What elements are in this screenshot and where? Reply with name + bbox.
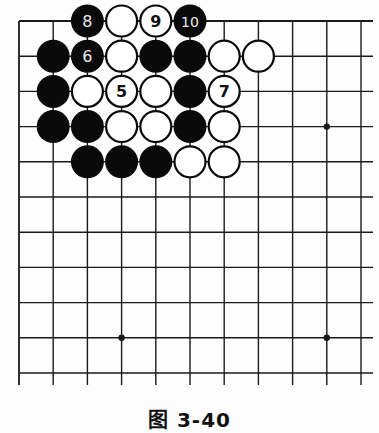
black-stone	[174, 75, 207, 108]
white-stone	[243, 41, 274, 72]
black-stone	[71, 110, 104, 143]
white-stone	[209, 146, 240, 177]
star-point	[118, 335, 124, 341]
move-number: 9	[150, 12, 161, 31]
star-point	[324, 123, 330, 129]
black-stone	[139, 40, 172, 73]
star-point	[324, 335, 330, 341]
move-number: 8	[82, 12, 92, 31]
move-number: 5	[116, 82, 127, 101]
move-number: 7	[219, 82, 230, 101]
black-stone	[37, 40, 70, 73]
black-stone	[174, 110, 207, 143]
white-stone	[106, 111, 137, 142]
white-stone	[106, 41, 137, 72]
go-board: 8910657	[0, 0, 379, 400]
black-stone	[105, 145, 138, 178]
black-stone	[139, 145, 172, 178]
black-stone	[174, 40, 207, 73]
move-number: 6	[82, 47, 92, 66]
white-stone	[140, 76, 171, 107]
black-stone	[37, 110, 70, 143]
white-stone	[209, 41, 240, 72]
black-stone	[37, 75, 70, 108]
figure-caption: 图 3-40	[0, 404, 379, 433]
white-stone	[209, 111, 240, 142]
black-stone	[71, 145, 104, 178]
white-stone	[106, 6, 137, 37]
white-stone	[175, 146, 206, 177]
white-stone	[72, 76, 103, 107]
move-number: 10	[181, 14, 199, 30]
white-stone	[140, 111, 171, 142]
